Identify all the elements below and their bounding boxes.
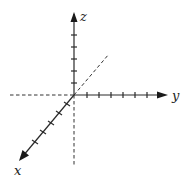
x-tick [40, 130, 46, 134]
y-axis-label: y [171, 88, 180, 103]
z-arrowhead-icon [71, 12, 78, 22]
y-arrowhead-icon [157, 92, 168, 99]
z-axis-label: z [79, 9, 87, 24]
x-axis-label: x [14, 163, 22, 178]
3d-axes-diagram: z y x [0, 0, 191, 181]
y-axis [74, 92, 168, 99]
negative-x-dashed-line [74, 54, 109, 95]
x-axis [19, 95, 74, 161]
negative-axes-dashed [10, 54, 109, 166]
x-arrowhead-icon [19, 150, 29, 161]
z-axis [71, 12, 78, 95]
x-tick [56, 111, 62, 115]
